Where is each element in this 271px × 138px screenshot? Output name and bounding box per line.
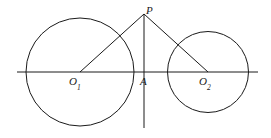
point-label-o2-base: O [199,75,207,87]
segment-p-to-o1 [80,14,144,72]
geometry-canvas [0,0,271,138]
geometry-figure: P O1 A O2 [0,0,271,138]
point-label-o1-base: O [69,75,77,87]
segment-p-to-o2 [144,14,208,72]
point-label-o1-subscript: 1 [77,83,81,92]
point-label-p: P [146,5,153,16]
point-label-o2: O2 [199,76,211,90]
point-label-o2-subscript: 2 [207,83,211,92]
line-group [17,14,258,128]
point-label-a: A [140,76,147,87]
point-label-o1: O1 [69,76,81,90]
